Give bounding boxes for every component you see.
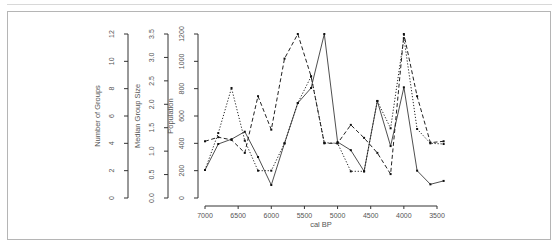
data-point — [244, 131, 246, 133]
data-point — [204, 140, 206, 142]
data-point — [297, 102, 299, 104]
data-point — [429, 183, 431, 185]
data-point — [429, 142, 431, 144]
data-point — [244, 140, 246, 142]
y-tick-label: 1200 — [178, 26, 185, 42]
y-tick-label: 8 — [108, 87, 115, 91]
y-tick-label: 2.0 — [148, 99, 155, 109]
data-point — [323, 142, 325, 144]
y-axis-label: Median Group Size — [133, 84, 142, 148]
data-point — [231, 87, 233, 89]
y-tick-label: 3.5 — [148, 29, 155, 39]
data-point — [217, 136, 219, 138]
y-tick-label: 3.0 — [148, 52, 155, 62]
y-axis-population: 020040060080010001200Population — [166, 26, 198, 200]
y-tick-label: 1.0 — [148, 146, 155, 156]
data-point — [416, 128, 418, 130]
data-point — [403, 33, 405, 35]
x-tick-label: 3500 — [429, 212, 445, 219]
data-point — [217, 132, 219, 134]
data-point — [257, 170, 259, 172]
data-point — [376, 100, 378, 102]
data-point — [350, 170, 352, 172]
data-point — [337, 142, 339, 144]
y-tick-label: 200 — [178, 165, 185, 177]
y-tick-label: 800 — [178, 83, 185, 95]
data-point — [270, 129, 272, 131]
y-tick-label: 10 — [108, 57, 115, 65]
data-point — [443, 180, 445, 182]
data-point — [270, 170, 272, 172]
data-point — [363, 137, 365, 139]
data-point — [284, 142, 286, 144]
y-axis-median-group-size: 0.00.51.01.52.02.53.03.5Median Group Siz… — [133, 29, 168, 203]
x-tick-label: 6500 — [230, 212, 246, 219]
y-tick-label: 0 — [178, 196, 185, 200]
data-point — [443, 140, 445, 142]
data-point — [416, 95, 418, 97]
y-tick-label: 6 — [108, 114, 115, 118]
y-tick-label: 0.0 — [148, 193, 155, 203]
data-point — [390, 145, 392, 147]
data-point — [323, 33, 325, 35]
data-point — [443, 143, 445, 145]
y-tick-label: 4 — [108, 141, 115, 145]
data-point — [284, 58, 286, 60]
x-axis: 70006500600055005000450040003500cal BP — [197, 206, 445, 229]
data-point — [376, 152, 378, 154]
x-axis-label: cal BP — [310, 220, 332, 229]
series-dotted — [204, 37, 445, 172]
data-point — [257, 156, 259, 158]
data-point — [270, 184, 272, 186]
y-axis-label: Number of Groups — [93, 85, 102, 147]
data-point — [363, 170, 365, 172]
data-point — [390, 173, 392, 175]
chart-canvas: 024681012Number of Groups0.00.51.01.52.0… — [0, 0, 556, 248]
series-dashed — [204, 33, 445, 175]
data-point — [350, 149, 352, 151]
y-axis-label: Population — [166, 98, 175, 133]
data-point — [217, 143, 219, 145]
data-point — [231, 139, 233, 141]
data-point — [204, 169, 206, 171]
x-tick-label: 5500 — [297, 212, 313, 219]
data-point — [310, 87, 312, 89]
x-tick-label: 4000 — [396, 212, 412, 219]
y-tick-label: 1.5 — [148, 123, 155, 133]
y-tick-label: 0 — [108, 196, 115, 200]
data-point — [310, 75, 312, 77]
y-tick-label: 2 — [108, 169, 115, 173]
data-point — [403, 86, 405, 88]
data-point — [390, 127, 392, 129]
y-tick-label: 400 — [178, 137, 185, 149]
y-tick-label: 0.5 — [148, 170, 155, 180]
y-axis-number-of-groups: 024681012Number of Groups — [93, 30, 128, 200]
data-point — [244, 152, 246, 154]
y-tick-label: 12 — [108, 30, 115, 38]
data-point — [416, 170, 418, 172]
x-tick-label: 7000 — [197, 212, 213, 219]
y-tick-label: 2.5 — [148, 76, 155, 86]
x-tick-label: 6000 — [263, 212, 279, 219]
data-point — [350, 124, 352, 126]
x-tick-label: 5000 — [330, 212, 346, 219]
data-point — [257, 95, 259, 97]
y-tick-label: 600 — [178, 110, 185, 122]
series-solid — [204, 33, 445, 186]
data-point — [297, 33, 299, 35]
x-tick-label: 4500 — [363, 212, 379, 219]
y-tick-label: 1000 — [178, 53, 185, 69]
